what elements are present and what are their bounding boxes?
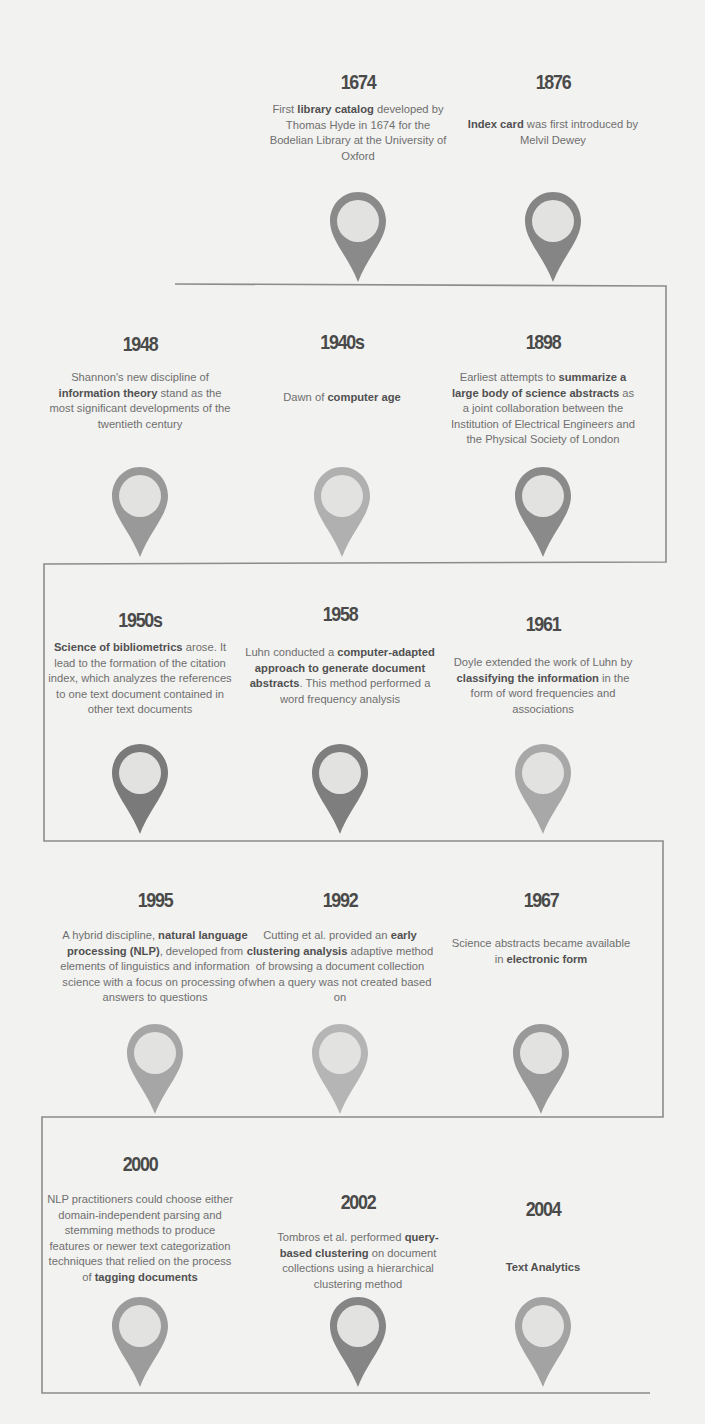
desc-highlight: Science of bibliometrics bbox=[54, 641, 183, 653]
event-description: Science abstracts became available in el… bbox=[446, 936, 636, 967]
event-year: 1948 bbox=[45, 332, 235, 366]
year-label: 2004 bbox=[462, 1197, 624, 1221]
event-year: 1674 bbox=[263, 70, 453, 104]
event-year: 1958 bbox=[245, 602, 435, 636]
pin-inner-circle bbox=[319, 752, 361, 794]
year-label: 1961 bbox=[462, 612, 624, 636]
event-description: Text Analytics bbox=[448, 1260, 638, 1276]
map-pin-icon bbox=[511, 1022, 571, 1114]
desc-text: First bbox=[272, 103, 297, 115]
desc-text: . This method performed a word frequency… bbox=[280, 677, 430, 705]
map-pin-icon bbox=[310, 1022, 370, 1114]
event-year: 1950s bbox=[45, 608, 235, 642]
map-pin-icon bbox=[513, 1295, 573, 1387]
event-description: Dawn of computer age bbox=[247, 390, 437, 406]
map-pin-icon bbox=[110, 1295, 170, 1387]
map-pin-icon bbox=[523, 190, 583, 282]
year-label: 1992 bbox=[259, 888, 421, 912]
desc-text: Shannon's new discipline of bbox=[71, 371, 209, 383]
desc-text: Doyle extended the work of Luhn by bbox=[454, 656, 633, 668]
desc-text: Luhn conducted a bbox=[245, 646, 337, 658]
event-description: First library catalog developed by Thoma… bbox=[263, 102, 453, 164]
event-year: 2002 bbox=[263, 1190, 453, 1224]
year-label: 1967 bbox=[460, 888, 622, 912]
event-year: 1940s bbox=[247, 330, 437, 364]
event-year: 2000 bbox=[45, 1152, 235, 1186]
map-pin-icon bbox=[328, 1295, 388, 1387]
event-year: 2004 bbox=[448, 1197, 638, 1231]
desc-text: Tombros et al. performed bbox=[277, 1231, 404, 1243]
map-pin-icon bbox=[125, 1022, 185, 1114]
event-description: Cutting et al. provided an early cluster… bbox=[245, 928, 435, 1006]
year-label: 1674 bbox=[277, 70, 439, 94]
event-description: Index card was first introduced by Melvi… bbox=[458, 117, 648, 148]
pin-inner-circle bbox=[522, 752, 564, 794]
year-label: 1898 bbox=[462, 330, 624, 354]
desc-text: A hybrid discipline, bbox=[62, 929, 158, 941]
event-year: 1967 bbox=[446, 888, 636, 922]
event-description: Shannon's new discipline of information … bbox=[45, 370, 235, 432]
pin-inner-circle bbox=[522, 475, 564, 517]
event-description: A hybrid discipline, natural language pr… bbox=[60, 928, 250, 1006]
desc-highlight: Index card bbox=[468, 118, 524, 130]
pin-inner-circle bbox=[134, 1032, 176, 1074]
year-label: 1940s bbox=[261, 330, 423, 354]
event-description: Science of bibliometrics arose. It lead … bbox=[45, 640, 235, 718]
desc-highlight: tagging documents bbox=[95, 1271, 198, 1283]
pin-inner-circle bbox=[119, 1305, 161, 1347]
pin-inner-circle bbox=[337, 1305, 379, 1347]
event-description: Doyle extended the work of Luhn by class… bbox=[448, 655, 638, 717]
pin-inner-circle bbox=[319, 1032, 361, 1074]
year-label: 1995 bbox=[74, 888, 236, 912]
desc-text: Dawn of bbox=[283, 391, 327, 403]
event-year: 1876 bbox=[458, 70, 648, 104]
desc-highlight: classifying the information bbox=[457, 672, 599, 684]
desc-highlight: library catalog bbox=[297, 103, 373, 115]
pin-inner-circle bbox=[119, 475, 161, 517]
desc-text: Cutting et al. provided an bbox=[263, 929, 391, 941]
event-year: 1961 bbox=[448, 612, 638, 646]
map-pin-icon bbox=[513, 465, 573, 557]
desc-text: NLP practitioners could choose either do… bbox=[47, 1193, 233, 1283]
map-pin-icon bbox=[310, 742, 370, 834]
event-description: Earliest attempts to summarize a large b… bbox=[448, 370, 638, 448]
desc-text: was first introduced by Melvil Dewey bbox=[520, 118, 638, 146]
map-pin-icon bbox=[312, 465, 372, 557]
map-pin-icon bbox=[110, 742, 170, 834]
event-description: NLP practitioners could choose either do… bbox=[45, 1192, 235, 1285]
pin-inner-circle bbox=[321, 475, 363, 517]
year-label: 1958 bbox=[259, 602, 421, 626]
year-label: 1950s bbox=[59, 608, 221, 632]
year-label: 1876 bbox=[472, 70, 634, 94]
desc-highlight: computer age bbox=[327, 391, 400, 403]
year-label: 2000 bbox=[59, 1152, 221, 1176]
desc-text: Earliest attempts to bbox=[460, 371, 559, 383]
pin-inner-circle bbox=[520, 1032, 562, 1074]
map-pin-icon bbox=[110, 465, 170, 557]
event-description: Luhn conducted a computer-adapted approa… bbox=[245, 645, 435, 707]
pin-inner-circle bbox=[522, 1305, 564, 1347]
pin-inner-circle bbox=[532, 200, 574, 242]
map-pin-icon bbox=[328, 190, 388, 282]
pin-inner-circle bbox=[119, 752, 161, 794]
year-label: 2002 bbox=[277, 1190, 439, 1214]
event-year: 1995 bbox=[60, 888, 250, 922]
desc-highlight: electronic form bbox=[507, 953, 588, 965]
desc-highlight: information theory bbox=[59, 387, 158, 399]
map-pin-icon bbox=[513, 742, 573, 834]
pin-inner-circle bbox=[337, 200, 379, 242]
event-year: 1898 bbox=[448, 330, 638, 364]
desc-highlight: Text Analytics bbox=[506, 1261, 581, 1273]
event-year: 1992 bbox=[245, 888, 435, 922]
event-description: Tombros et al. performed query-based clu… bbox=[263, 1230, 453, 1292]
year-label: 1948 bbox=[59, 332, 221, 356]
